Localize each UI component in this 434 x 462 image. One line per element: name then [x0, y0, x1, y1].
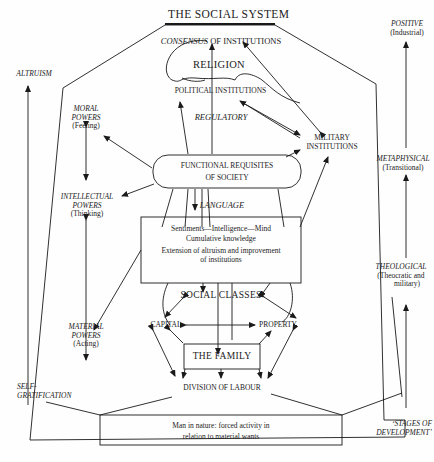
nature-line1: Man in nature: forced activity in: [102, 421, 340, 432]
material-sub: (Acting): [61, 340, 111, 349]
mind-line1: Sentiments—Intelligence—Mind: [143, 224, 299, 234]
family-label: THE FAMILY: [186, 351, 258, 362]
functional-line1: FUNCTIONAL REQUISITES: [160, 160, 294, 172]
stages-of-development-caption: ‘STAGES OF DEVELOPMENT’: [362, 420, 432, 437]
mind-box-text: Sentiments—Intelligence—Mind Cumulative …: [143, 224, 299, 264]
consensus-rest: OF INSTITUTIONS: [208, 36, 281, 46]
intellectual-sub: (Thinking): [56, 210, 118, 219]
self-gratification-label: SELF- GRATIFICATION: [17, 383, 71, 400]
military-institutions-label: MILITARY INSTITUTIONS: [300, 134, 364, 151]
material-powers-label: MATERIAL POWERS (Acting): [61, 323, 111, 349]
stage-metaphysical-label: METAPHYSICAL (Transitional): [372, 155, 434, 172]
diagram-title: THE SOCIAL SYSTEM: [168, 8, 274, 21]
social-classes-label: SOCIAL CLASSES: [180, 290, 262, 301]
mind-line2: Cumulative knowledge: [143, 234, 299, 244]
political-institutions-label: POLITICAL INSTITUTIONS: [168, 87, 273, 96]
property-label: PROPERTY: [256, 321, 300, 330]
moral-sub: (Feeling): [62, 122, 110, 131]
regulatory-label: REGULATORY: [186, 113, 256, 123]
nature-box-text: Man in nature: forced activity in relati…: [102, 421, 340, 442]
stages-caption-line2: DEVELOPMENT’: [362, 429, 432, 438]
stage-positive-label: POSITIVE (Industrial): [382, 20, 432, 37]
mind-line4: of institutions: [143, 256, 299, 264]
consensus-label: CONSENSUS OF INSTITUTIONS: [156, 37, 286, 47]
moral-powers-label: MORAL POWERS (Feeling): [62, 105, 110, 131]
division-of-labour-label: DIVISION OF LABOUR: [176, 384, 268, 393]
functional-requisites-label: FUNCTIONAL REQUISITES OF SOCIETY: [160, 160, 294, 183]
intellectual-powers-label: INTELLECTUAL POWERS (Thinking): [56, 193, 118, 219]
religion-label: RELIGION: [188, 59, 250, 71]
stage-theological-label: THEOLOGICAL (Theocratic and military): [370, 263, 432, 289]
consensus-italic: CONSENSUS: [161, 36, 208, 46]
theological-sub2: military): [370, 280, 432, 289]
positive-sub: (Industrial): [382, 29, 432, 38]
nature-line2: relation to material wants: [102, 432, 340, 443]
self-line2: GRATIFICATION: [17, 392, 71, 401]
social-system-diagram: THE SOCIAL SYSTEM CONSENSUS OF INSTITUTI…: [0, 0, 434, 462]
capital-label: CAPITAL: [146, 321, 186, 330]
altruism-label: ALTRUISM: [12, 70, 56, 79]
language-label: LANGUAGE: [192, 201, 252, 211]
functional-line2: OF SOCIETY: [160, 172, 294, 184]
metaphysical-sub: (Transitional): [372, 164, 434, 173]
military-line2: INSTITUTIONS: [300, 143, 364, 152]
